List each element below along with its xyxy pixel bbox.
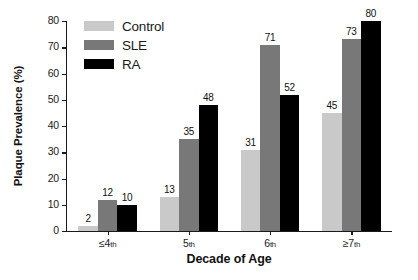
- bar: 45: [322, 113, 342, 231]
- y-tick-mark: [62, 47, 66, 48]
- bar-value-label: 31: [245, 137, 256, 148]
- y-tick-label: 60: [48, 67, 59, 79]
- legend-swatch-icon: [84, 59, 114, 69]
- y-tick-label: 30: [48, 145, 59, 157]
- bar-value-label: 13: [164, 184, 175, 195]
- bar: 52: [280, 95, 300, 232]
- bar: 12: [98, 200, 118, 232]
- x-tick-mark: [270, 231, 271, 235]
- x-axis-title: Decade of Age: [66, 252, 392, 266]
- legend-item: Control: [84, 17, 164, 35]
- y-tick-label: 40: [48, 119, 59, 131]
- bar-value-label: 71: [265, 32, 276, 43]
- bar: 10: [117, 205, 137, 231]
- x-tick-mark: [189, 231, 190, 235]
- x-tick-label: ≥7th: [343, 237, 360, 249]
- y-tick-label: 70: [48, 40, 59, 52]
- y-tick-mark: [62, 21, 66, 22]
- y-tick-label: 20: [48, 172, 59, 184]
- y-tick-label: 80: [48, 14, 59, 26]
- bar-value-label: 52: [284, 82, 295, 93]
- bar: 13: [160, 197, 180, 231]
- bar-value-label: 12: [102, 187, 113, 198]
- y-tick-mark: [62, 126, 66, 127]
- bar-chart-figure: Plaque Prevalence (%) 01020304050607080 …: [0, 0, 418, 280]
- y-tick-mark: [62, 74, 66, 75]
- y-tick-label: 10: [48, 198, 59, 210]
- bar: 2: [78, 226, 98, 231]
- bar-value-label: 45: [327, 100, 338, 111]
- bar: 48: [199, 105, 219, 231]
- bar: 35: [179, 139, 199, 231]
- bar: 73: [342, 39, 362, 231]
- x-tick-mark: [108, 231, 109, 235]
- x-tick-label: 5th: [183, 237, 195, 249]
- bar: 80: [361, 21, 381, 231]
- legend-swatch-icon: [84, 21, 114, 31]
- y-tick-label: 0: [53, 224, 59, 236]
- x-tick-label: 6th: [264, 237, 276, 249]
- bar-value-label: 48: [203, 92, 214, 103]
- bar: 71: [260, 45, 280, 231]
- bar-value-label: 73: [346, 26, 357, 37]
- y-tick-label: 50: [48, 93, 59, 105]
- legend-label: SLE: [122, 38, 147, 53]
- y-tick-mark: [62, 205, 66, 206]
- y-tick-mark: [62, 100, 66, 101]
- bar-value-label: 80: [366, 8, 377, 19]
- bar-value-label: 10: [122, 192, 133, 203]
- y-tick-mark: [62, 231, 66, 232]
- legend-item: SLE: [84, 36, 164, 54]
- x-tick-mark: [351, 231, 352, 235]
- x-tick-label: ≤4th: [99, 237, 116, 249]
- legend-label: Control: [122, 19, 164, 34]
- legend: ControlSLERA: [84, 17, 164, 74]
- legend-label: RA: [122, 57, 140, 72]
- bar-value-label: 35: [184, 126, 195, 137]
- y-tick-mark: [62, 179, 66, 180]
- y-tick-mark: [62, 152, 66, 153]
- bar: 31: [241, 150, 261, 231]
- x-axis-line: [66, 231, 392, 232]
- y-axis-title: Plaque Prevalence (%): [10, 21, 26, 231]
- bar-value-label: 2: [85, 213, 90, 224]
- legend-item: RA: [84, 55, 164, 73]
- legend-swatch-icon: [84, 40, 114, 50]
